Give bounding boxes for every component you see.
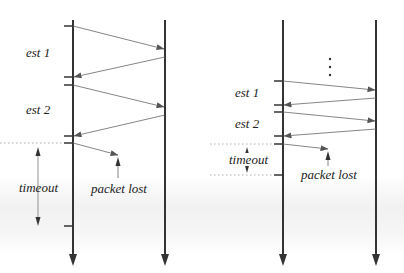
left-packet-lost-label: packet lost — [91, 182, 147, 195]
right-ack-arrow — [284, 98, 376, 105]
left-message-arrow — [73, 85, 164, 107]
left-timeout-label: timeout — [19, 181, 58, 194]
right-ellipsis-dot — [329, 58, 331, 60]
right-receiver-timeline-arrowhead — [372, 254, 380, 266]
right-packet-lost-pointer-head — [326, 151, 331, 160]
left-est1-label: est 1 — [26, 46, 50, 59]
left-receiver-timeline-arrowhead — [161, 254, 169, 266]
right-lost-message-arrow — [283, 144, 328, 149]
right-message-arrow — [283, 112, 375, 121]
right-ellipsis-dot — [329, 66, 331, 68]
right-est1-label: est 1 — [235, 86, 259, 99]
right-est2-label: est 2 — [235, 117, 259, 130]
left-message-arrow — [73, 26, 164, 49]
left-timeout-arrow-down-head — [36, 217, 41, 226]
right-timeout-label: timeout — [228, 153, 269, 166]
diagram-svg — [0, 0, 404, 273]
right-message-arrow — [283, 81, 375, 90]
left-lost-message-arrow — [73, 143, 118, 155]
right-ellipsis-dot — [329, 74, 331, 76]
left-packet-lost-pointer-head — [116, 157, 121, 166]
left-est2-label: est 2 — [26, 103, 50, 116]
left-ack-arrow — [74, 57, 165, 77]
left-ack-arrow — [74, 115, 165, 136]
right-packet-lost-label: packet lost — [301, 168, 357, 181]
right-sender-timeline-arrowhead — [279, 254, 287, 266]
timing-diagram-canvas: est 1 est 2 timeout packet lost est 1 es… — [0, 0, 404, 273]
left-timeout-arrow-up-head — [36, 147, 41, 156]
left-sender-timeline-arrowhead — [69, 254, 77, 266]
right-diagram — [210, 20, 380, 266]
right-ack-arrow — [284, 129, 376, 136]
